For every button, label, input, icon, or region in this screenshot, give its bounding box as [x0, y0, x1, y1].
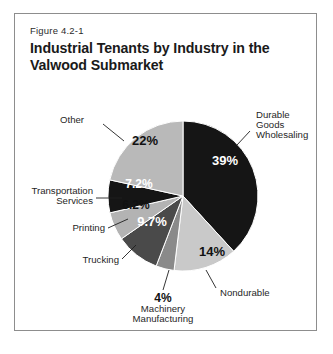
figure-number: Figure 4.2-1: [30, 24, 300, 37]
figure-container: Figure 4.2-1 Industrial Tenants by Indus…: [0, 0, 333, 354]
figure-title-block: Figure 4.2-1 Industrial Tenants by Indus…: [30, 24, 300, 73]
page-title: Industrial Tenants by Industry in the Va…: [30, 40, 288, 73]
